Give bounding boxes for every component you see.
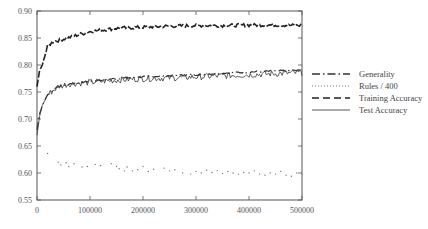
series-test-accuracy bbox=[37, 70, 302, 136]
series-rules bbox=[47, 153, 303, 177]
x-tick-label: 0 bbox=[35, 206, 39, 215]
series-training-accuracy bbox=[37, 24, 302, 87]
y-tick-label: 0.55 bbox=[18, 196, 32, 205]
y-tick-label: 0.70 bbox=[18, 115, 32, 124]
legend-item-training-accuracy: Training Accuracy bbox=[312, 93, 423, 103]
x-tick-label: 500000 bbox=[290, 206, 314, 215]
y-tick-label: 0.80 bbox=[18, 61, 32, 70]
plot-frame bbox=[37, 11, 302, 200]
x-tick-label: 200000 bbox=[131, 206, 155, 215]
legend: Generality Rules / 400 Training Accuracy… bbox=[312, 69, 423, 115]
y-tick-label: 0.60 bbox=[18, 169, 32, 178]
y-tick-label: 0.90 bbox=[18, 7, 32, 16]
y-tick-label: 0.75 bbox=[18, 88, 32, 97]
x-axis: 0100000200000300000400000500000 bbox=[35, 11, 314, 215]
legend-item-rules: Rules / 400 bbox=[312, 81, 398, 91]
plot-border bbox=[37, 11, 302, 200]
legend-label-rules: Rules / 400 bbox=[359, 81, 398, 91]
legend-item-generality: Generality bbox=[312, 69, 396, 79]
legend-item-test-accuracy: Test Accuracy bbox=[312, 105, 408, 115]
x-tick-label: 300000 bbox=[184, 206, 208, 215]
legend-label-generality: Generality bbox=[359, 69, 396, 79]
y-axis: 0.550.600.650.700.750.800.850.90 bbox=[18, 7, 302, 205]
x-tick-label: 100000 bbox=[78, 206, 102, 215]
legend-label-test-accuracy: Test Accuracy bbox=[359, 105, 408, 115]
legend-label-training-accuracy: Training Accuracy bbox=[359, 93, 423, 103]
series-layer bbox=[37, 24, 303, 177]
y-tick-label: 0.65 bbox=[18, 142, 32, 151]
chart: 0.550.600.650.700.750.800.850.90 0100000… bbox=[0, 0, 428, 229]
x-tick-label: 400000 bbox=[237, 206, 261, 215]
y-tick-label: 0.85 bbox=[18, 34, 32, 43]
